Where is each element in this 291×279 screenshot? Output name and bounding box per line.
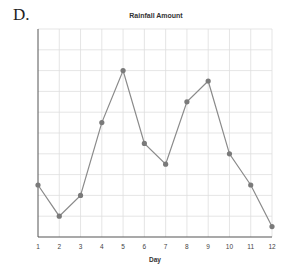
series-rainfall [35, 68, 274, 229]
x-tick-label: 3 [79, 243, 83, 250]
x-axis-label: Day [149, 256, 161, 264]
data-point [99, 120, 104, 125]
data-point [248, 182, 253, 187]
data-point [35, 182, 40, 187]
rainfall-line-chart: Rainfall Amount 123456789101112 Day [0, 0, 291, 279]
data-point [57, 214, 62, 219]
data-point [184, 99, 189, 104]
x-tick-label: 1 [36, 243, 40, 250]
x-tick-label: 2 [57, 243, 61, 250]
x-tick-label: 6 [143, 243, 147, 250]
data-point [269, 224, 274, 229]
x-tick-label: 10 [226, 243, 234, 250]
data-point [142, 141, 147, 146]
x-tick-label: 12 [268, 243, 276, 250]
x-tick-label: 11 [247, 243, 254, 250]
data-point [227, 151, 232, 156]
x-tick-label: 5 [121, 243, 125, 250]
data-point [206, 78, 211, 83]
x-tick-label: 9 [206, 243, 210, 250]
data-point [163, 162, 168, 167]
x-tick-label: 7 [164, 243, 168, 250]
x-tick-labels: 123456789101112 [36, 243, 276, 250]
x-tick-label: 4 [100, 243, 104, 250]
series-line [38, 71, 272, 227]
x-tick-label: 8 [185, 243, 189, 250]
data-point [120, 68, 125, 73]
grid [38, 29, 272, 237]
chart-title: Rainfall Amount [129, 12, 183, 19]
data-point [78, 193, 83, 198]
